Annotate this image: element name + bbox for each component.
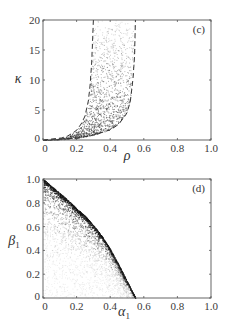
x-tick-label: 0.4: [103, 142, 117, 154]
x-tick-label: 0.2: [70, 300, 84, 312]
x-tick-label: 0.6: [137, 300, 151, 312]
y-axis-label-d: β1: [7, 233, 19, 250]
x-tick-label: 0.8: [171, 142, 185, 154]
y-tick-label: 0.8: [26, 197, 40, 209]
plot-frame-d: [43, 179, 211, 298]
y-tick-label: 0: [35, 290, 41, 302]
x-tick-label: 0.8: [171, 300, 185, 312]
dashed-boundaries-c: [43, 20, 135, 140]
y-tick-label: 0.2: [26, 268, 40, 280]
x-tick-label: 0.6: [137, 142, 151, 154]
x-tick-label: 0.4: [103, 300, 117, 312]
scatter-points-d: [43, 179, 136, 299]
y-tick-label: 0.4: [26, 244, 40, 256]
scatter-points-c: [43, 20, 136, 140]
y-tick-label: 1.0: [26, 173, 40, 185]
y-tick-label: 5: [35, 104, 41, 116]
panel-label-c: (c): [193, 23, 206, 36]
panel-c: 00.20.40.60.81.005101520 (c) ρ κ: [15, 14, 219, 163]
x-axis-label-c: ρ: [123, 148, 131, 163]
x-tick-label: 0.2: [70, 142, 84, 154]
figure: 00.20.40.60.81.005101520 (c) ρ κ 00.20.4…: [0, 0, 230, 333]
y-tick-label: 0: [35, 132, 41, 144]
x-tick-label: 1.0: [204, 142, 218, 154]
y-axis-label-c: κ: [15, 71, 22, 86]
dashed-boundary-curve: [43, 20, 135, 140]
x-tick-label: 0: [42, 142, 48, 154]
y-tick-label: 15: [29, 44, 41, 56]
x-tick-label: 0: [42, 300, 48, 312]
x-tick-label: 1.0: [204, 300, 218, 312]
dashed-boundary-curve: [43, 20, 93, 140]
y-tick-label: 20: [29, 14, 41, 26]
ticks-c: 00.20.40.60.81.005101520: [29, 14, 218, 154]
y-tick-label: 0.6: [26, 221, 40, 233]
panel-label-d: (d): [192, 182, 205, 195]
x-axis-label-d: α1: [118, 304, 130, 321]
y-tick-label: 10: [29, 74, 41, 86]
panel-d: 00.20.40.60.81.000.20.40.60.81.0 (d) α1 …: [7, 173, 218, 321]
